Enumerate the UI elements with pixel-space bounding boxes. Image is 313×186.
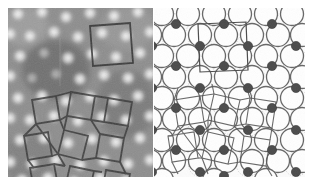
stm-image-svg (8, 8, 153, 177)
stm-noise-texture (8, 8, 153, 177)
structural-model-panel (154, 8, 305, 177)
model-noise-texture (154, 8, 305, 177)
stm-image-panel (8, 8, 153, 177)
structural-model-svg (154, 8, 305, 177)
figure-container: Dodecagonal quasicrystal surface: STM im… (0, 0, 313, 186)
